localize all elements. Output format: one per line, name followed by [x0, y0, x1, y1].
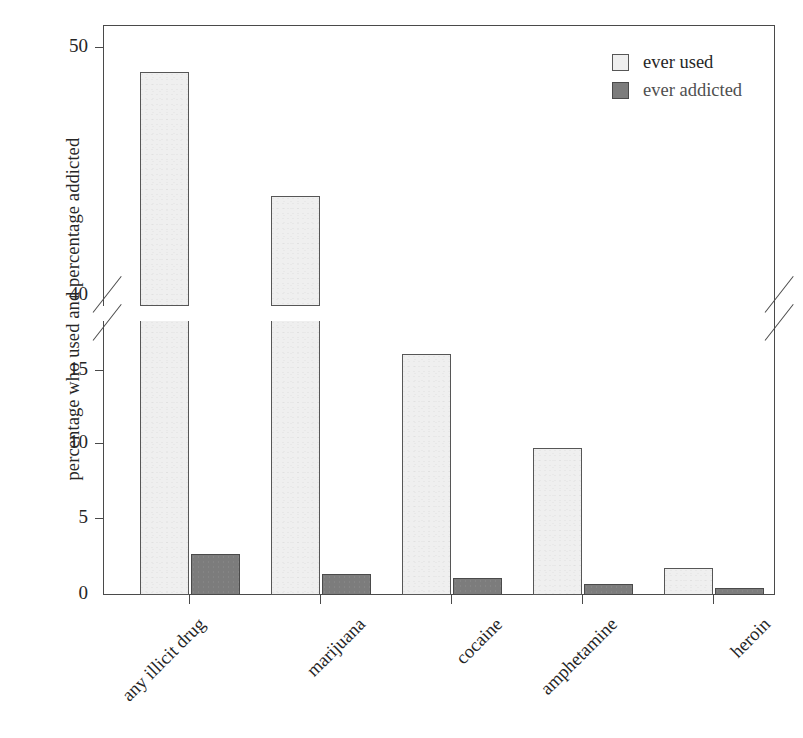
- y-tick-label-10: 10: [42, 431, 88, 453]
- bar-ever-addicted-heroin: [715, 588, 764, 595]
- x-tick-amphetamine: [582, 594, 583, 604]
- x-axis-label-marijuana: marijuana: [217, 614, 370, 738]
- bar-ever-addicted-amphetamine: [584, 584, 633, 595]
- bar-ever-used-any-illicit-drug-lower: [140, 321, 189, 595]
- y-tick-label-15: 15: [42, 358, 88, 380]
- bar-ever-used-cocaine: [402, 354, 451, 595]
- y-axis-label: percentage who used and percentage addic…: [63, 141, 84, 481]
- bar-ever-addicted-cocaine: [453, 578, 502, 595]
- y-tick-5: [95, 518, 104, 519]
- bar-ever-used-amphetamine: [533, 448, 582, 595]
- y-tick-label-5: 5: [42, 506, 88, 528]
- bar-ever-addicted-any-illicit-drug: [191, 554, 240, 595]
- bar-ever-used-marijuana-upper: [271, 196, 320, 306]
- legend-item-ever-addicted: ever addicted: [612, 76, 742, 104]
- legend-item-ever-used: ever used: [612, 48, 742, 76]
- y-tick-label-50: 50: [42, 35, 88, 57]
- bar-chart: percentage who used and percentage addic…: [0, 0, 803, 738]
- legend: ever used ever addicted: [612, 48, 742, 104]
- y-tick-15: [95, 370, 104, 371]
- legend-label-ever-used: ever used: [643, 52, 713, 73]
- y-tick-10: [95, 443, 104, 444]
- legend-label-ever-addicted: ever addicted: [643, 80, 742, 101]
- x-tick-marijuana: [320, 594, 321, 604]
- bar-ever-used-any-illicit-drug-upper: [140, 72, 189, 306]
- x-axis-label-heroin: heroin: [622, 614, 775, 738]
- x-tick-heroin: [713, 594, 714, 604]
- bar-ever-used-marijuana-lower: [271, 321, 320, 595]
- legend-swatch-ever-addicted-icon: [612, 82, 629, 99]
- x-tick-any-illicit-drug: [189, 594, 190, 604]
- bar-ever-addicted-marijuana: [322, 574, 371, 595]
- bar-ever-used-heroin: [664, 568, 713, 595]
- y-tick-50: [95, 47, 104, 48]
- x-axis-label-cocaine: cocaine: [354, 614, 507, 738]
- y-axis-lower-segment: [103, 321, 104, 594]
- x-axis-label-any-illicit-drug: any illicit drug: [57, 614, 210, 738]
- y-tick-label-40: 40: [42, 283, 88, 305]
- x-tick-cocaine: [451, 594, 452, 604]
- legend-swatch-ever-used-icon: [612, 54, 629, 71]
- y-tick-label-0: 0: [42, 582, 88, 604]
- y-axis-upper-segment: [103, 25, 104, 306]
